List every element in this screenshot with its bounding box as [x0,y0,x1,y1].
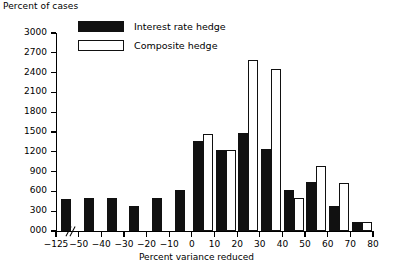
bar-composite-hedge [316,166,326,231]
bar-interest-rate-hedge [84,198,94,231]
bar-composite-hedge [248,60,258,231]
bar-composite-hedge [294,198,304,231]
bar-interest-rate-hedge [61,199,71,231]
bar-interest-rate-hedge [107,198,117,231]
legend-label-composite-hedge: Composite hedge [134,39,218,52]
legend-swatch-interest-rate-hedge [78,21,124,32]
x-tick-mark [169,232,170,237]
x-tick-mark [146,232,147,237]
bar-interest-rate-hedge [216,150,226,231]
x-tick-mark [123,232,124,237]
y-tick-label: 3000 [13,28,47,37]
y-tick-label: 1500 [13,127,47,136]
x-tick-mark [350,232,351,237]
y-tick-label: 000 [13,226,47,235]
bar-interest-rate-hedge [152,198,162,231]
y-tick-label: 900 [13,167,47,176]
x-tick-mark [214,232,215,237]
y-tick-label: 300 [13,206,47,215]
bar-interest-rate-hedge [193,141,203,231]
bar-interest-rate-hedge [329,206,339,231]
x-tick-mark [101,232,102,237]
x-tick-mark [78,232,79,237]
bar-interest-rate-hedge [306,182,316,231]
bar-composite-hedge [271,69,281,231]
x-tick-mark [259,232,260,237]
x-axis-title: Percent variance reduced [0,252,393,262]
bar-composite-hedge [203,134,213,231]
bar-composite-hedge [226,150,236,231]
bar-interest-rate-hedge [238,133,248,231]
legend-label-interest-rate-hedge: Interest rate hedge [134,20,226,33]
y-tick-label: 2700 [13,48,47,57]
y-tick-label: 2100 [13,87,47,96]
x-tick-mark [55,232,56,237]
bar-interest-rate-hedge [261,149,271,231]
bar-interest-rate-hedge [284,190,294,231]
x-tick-mark [327,232,328,237]
bar-interest-rate-hedge [352,222,362,231]
x-tick-mark [304,232,305,237]
plot-area [56,33,373,231]
chart-figure: Percent of cases 00030060090012001500180… [0,0,393,269]
x-tick-mark [372,232,373,237]
y-tick-label: 1800 [13,107,47,116]
x-tick-label: 80 [356,240,390,249]
y-tick-label: 1200 [13,147,47,156]
legend-swatch-composite-hedge [78,40,124,51]
y-tick-label: 600 [13,186,47,195]
bar-interest-rate-hedge [175,190,185,231]
y-tick-label: 2400 [13,68,47,77]
bar-composite-hedge [362,222,372,231]
x-tick-mark [191,232,192,237]
x-tick-mark [237,232,238,237]
y-axis-label: Percent of cases [3,1,78,11]
bar-interest-rate-hedge [129,206,139,231]
bar-composite-hedge [339,183,349,232]
x-tick-mark [282,232,283,237]
